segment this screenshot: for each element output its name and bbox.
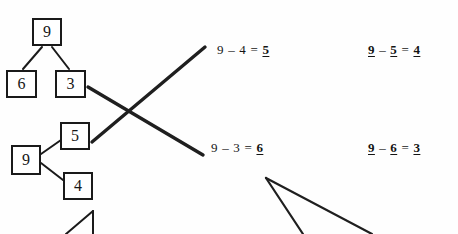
equation-nine-minus-five: 9 – 5 = 4: [368, 42, 420, 58]
equation-nine-minus-four: 9 – 4 = 5: [217, 42, 269, 58]
equation-nine-minus-six: 9 – 6 = 3: [368, 140, 420, 156]
partial-number-bond-bottom-left: [66, 211, 93, 234]
equation-answer: 6: [256, 140, 263, 155]
bond-box-whole-lower-left: 9: [11, 145, 41, 175]
bond-box-part-top-left-first: 6: [6, 70, 37, 98]
worksheet-page: 9 6 3 9 5 4 9 – 4 = 5 9 – 3 = 6 9 – 5 = …: [0, 0, 458, 234]
bond-box-whole-top-left: 9: [32, 18, 62, 46]
equation-left-operand: 9: [368, 140, 375, 155]
equation-left-operand: 9: [368, 42, 375, 57]
equation-left-operand: 9: [217, 42, 224, 57]
equation-answer: 3: [413, 140, 420, 155]
equation-answer: 4: [413, 42, 420, 57]
equation-nine-minus-three: 9 – 3 = 6: [211, 140, 263, 156]
bond-box-part-lower-left-first: 5: [60, 122, 90, 150]
bond-box-part-lower-left-second: 4: [63, 172, 93, 200]
equation-left-operand: 9: [211, 140, 218, 155]
equation-answer: 5: [262, 42, 269, 57]
bond-connectors-top-left: [23, 47, 69, 69]
matching-line-stroke: [88, 47, 205, 155]
partial-matching-lines-bottom-right: [266, 178, 372, 234]
bond-box-part-top-left-second: 3: [55, 70, 86, 98]
